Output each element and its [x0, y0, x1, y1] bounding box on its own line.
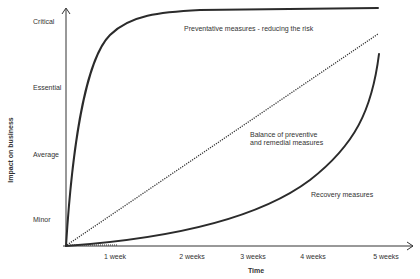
annotation-balance-line1: Balance of preventive: [250, 131, 323, 139]
y-label-critical: Critical: [33, 18, 54, 25]
x-axis: [63, 242, 413, 250]
annotation-balance-line2: and remedial measures: [250, 139, 323, 147]
y-axis-title: Impact on business: [7, 117, 14, 182]
y-label-essential: Essential: [33, 84, 61, 91]
annotation-balance: Balance of preventive and remedial measu…: [250, 131, 323, 148]
x-label-1-week: 1 week: [104, 253, 126, 260]
y-label-minor: Minor: [33, 216, 51, 223]
balance-line: [67, 34, 378, 245]
x-label-3-weeks: 3 weeks: [240, 253, 266, 260]
y-label-average: Average: [33, 151, 59, 158]
x-axis-title: Time: [248, 267, 264, 274]
chart-canvas: [0, 0, 420, 279]
x-label-2-weeks: 2 weeks: [179, 253, 205, 260]
preventive-curve: [66, 8, 378, 246]
recovery-curve: [66, 54, 379, 246]
x-label-5-weeks: 5 weeks: [373, 253, 399, 260]
x-label-4-weeks: 4 weeks: [300, 253, 326, 260]
annotation-preventive: Preventative measures - reducing the ris…: [184, 25, 313, 33]
annotation-recovery: Recovery measures: [311, 191, 373, 199]
